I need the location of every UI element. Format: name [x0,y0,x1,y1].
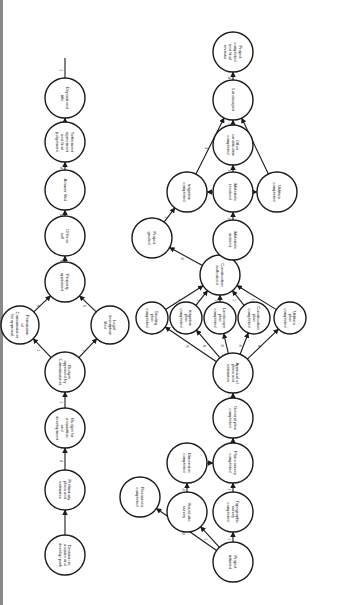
acquisition-node: Budget foracquisitionanddevelopment [45,408,85,448]
acquisition-edge: 1 [79,339,97,358]
development-node: Materialsordered [213,220,253,260]
node-label: completed [228,408,233,428]
node-label: Landscaped [231,89,236,112]
edge-line [232,291,244,306]
acquisition-node: Decision toacquire anddevelop park [45,535,85,575]
node-label: judgement [55,131,60,152]
acquisition-edge: 4 [59,448,65,470]
diagram-frame: 4111664444111221441248888811111841164412… [0,0,346,605]
edge-line [79,339,97,358]
node-label: completed [247,308,252,328]
node-label: completed [179,308,184,328]
development-edge: 8 [170,248,203,266]
node-label: completed [226,502,231,522]
acquisition-edge: 4 [59,162,65,170]
edge-duration-label: 4 [181,489,186,492]
development-edge: 1 [227,532,233,542]
acquisition-node: Budgetapproved byCommissioner [45,352,85,392]
acquisition-edge: 1 [33,339,51,358]
acquisition-edge: 6 [79,296,96,312]
acquisition-node: Settlementagreementand finaljudgement [45,122,85,162]
acquisition-edge: 6 [34,296,51,312]
edge-line [196,291,208,306]
node-label: completed [182,453,187,473]
node-label: survey [182,506,187,519]
development-node: Landscapeplancompleted [204,302,236,334]
development-node: Visual sitesurvey [167,492,207,532]
node-label: develop park [58,543,63,568]
edge-duration-label: 1 [251,299,256,302]
development-node: General plancompleted [213,398,253,438]
node-label: completed [135,487,140,507]
development-edge: 1 [232,291,244,306]
node-label: for approval [10,314,15,336]
edge-line [79,296,96,312]
node-label: completed [226,135,231,155]
pert-diagram: 4111664444111221441248888811111841164412… [0,0,346,605]
development-node: Resourcescompleted [120,477,160,517]
development-edge: 1 [201,527,220,548]
edge-line [224,334,229,354]
node-label: Commissioner [58,359,63,386]
development-node: Constructionplancompleted [238,302,270,334]
development-node: Dimensioncompleted [167,443,207,483]
node-label: development [55,416,60,441]
edge-line [201,527,220,548]
node-label: ordered [228,233,233,248]
edge-duration-label: 6 [82,305,87,308]
node-label: graded [147,231,152,245]
edge-duration-label: 1 [59,69,64,72]
nodes-layer: Decision toacquire anddevelop parkPrelim… [1,32,306,582]
development-node: Utilitiesplancompleted [274,302,306,334]
development-node: Utilitiescompleted [257,172,297,212]
development-node: Projectcompletedand finalreviews [213,32,253,72]
node-label: completed [145,308,150,328]
edge-line [164,208,175,222]
edge-duration-label: 1 [227,538,232,541]
acquisition-node: Legaldescriptionfiled [91,306,129,344]
acquisition-node: Preliminaryplans andestimates [45,470,85,510]
node-label: reviews [223,45,228,59]
development-edge: 1 [227,483,233,492]
development-node: Topographicsurveycompleted [213,492,253,532]
development-node: Projectinitiated [213,542,253,582]
development-node: Landscaped [213,80,253,120]
edge-line [170,248,203,266]
edge-duration-label: 1 [36,349,41,352]
node-label: completed [182,182,187,202]
edge-duration-label: 8 [185,345,190,348]
node-label: Answer filed [63,179,68,202]
edge-duration-label: 1 [232,299,237,302]
edge-duration-label: 4 [59,460,64,463]
node-label: completed [213,308,218,328]
edge-duration-label: 1 [204,538,209,541]
node-label: sell [60,233,65,239]
edge-duration-label: 8 [180,258,185,261]
development-node: Irrigationcompleted [167,172,207,212]
development-node: Irrigationplancompleted [170,302,202,334]
acquisition-edge: 1 [59,392,65,408]
development-edge: 8 [238,333,248,354]
node-label: completed [272,182,277,202]
edge-duration-label: 1 [227,489,232,492]
edge-duration-label: 1 [59,401,64,404]
node-label: completed [228,453,233,473]
acquisition-node: Propertyappraised [45,262,85,302]
development-node: Materialsreceived [213,172,253,212]
acquisition-node: Deposit andtitle [45,78,85,118]
development-node: Plans surveycompleted [213,443,253,483]
development-node: Gradingplancompleted [136,302,168,334]
development-node: Constructionauthorized [200,255,240,295]
development-edge: 4 [181,483,187,492]
acquisition-node: PermissionofCommissionerfor approval [1,306,39,344]
node-label: completed [283,308,288,328]
node-label: authorized [215,265,220,285]
edge-line [33,339,51,358]
development-edge: 4 [227,72,233,80]
edge-duration-label: 1 [164,216,169,219]
development-edge: 8 [220,334,228,354]
node-label: estimates [58,481,63,499]
node-label: title [60,95,65,102]
node-label: estimates [226,364,231,382]
acquisition-node: Answer filed [45,170,85,210]
